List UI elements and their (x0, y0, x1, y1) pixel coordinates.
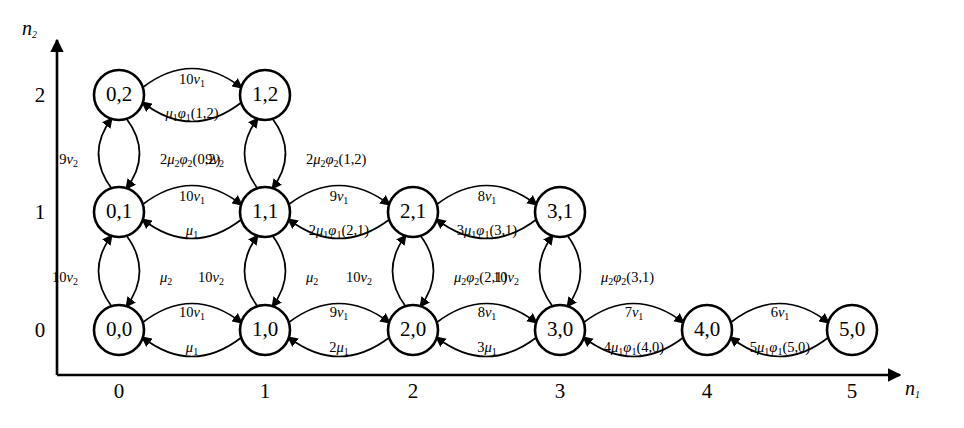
edge-up (245, 235, 259, 307)
x-tick-label: 2 (408, 379, 419, 403)
y-axis-name: n2 (22, 18, 37, 40)
transition-rate-label: 10v1 (179, 305, 205, 322)
transition-rate-label: 10v2 (52, 270, 78, 287)
state-node-label: 5,0 (839, 317, 865, 341)
state-node-label: 4,0 (694, 317, 720, 341)
edge-up (99, 235, 113, 307)
edge-down (567, 235, 581, 307)
state-node[interactable]: 0,2 (94, 70, 144, 120)
state-node-label: 1,2 (252, 82, 278, 106)
state-node-label: 3,0 (547, 317, 573, 341)
edge-down (126, 235, 140, 307)
transition-rate-label: μ1 (186, 340, 198, 357)
x-tick-label: 0 (114, 379, 125, 403)
x-tick-label: 3 (555, 379, 566, 403)
transition-rate-label: 3μ1 (477, 340, 497, 357)
transition-rate-label: μ2 (306, 270, 318, 287)
transition-rate-label: 10v2 (493, 270, 519, 287)
transition-rate-label: 9v2 (59, 152, 78, 169)
state-node-label: 0,2 (106, 82, 132, 106)
transition-rate-label: 2μ1 (329, 340, 349, 357)
transition-rate-label: 10v1 (179, 72, 205, 89)
y-tick-label: 0 (35, 318, 46, 342)
state-node[interactable]: 2,1 (388, 187, 438, 237)
transition-rate-label: 4μ1φ1(4,0) (604, 340, 664, 357)
transition-rate-label: 8v1 (478, 305, 497, 322)
state-node[interactable]: 4,0 (682, 305, 732, 355)
transition-rate-label: 8v1 (478, 189, 497, 206)
state-node-label: 1,0 (252, 317, 278, 341)
state-diagram-svg: 0,01,02,03,04,05,00,11,12,13,10,21,2 012… (0, 0, 964, 428)
transition-rate-label: 10v2 (198, 270, 224, 287)
edge-down (272, 118, 286, 189)
x-tick-label: 1 (260, 379, 271, 403)
transition-rate-label: 2μ1φ1(2,1) (309, 223, 369, 240)
edge-down (272, 235, 286, 307)
state-node-label: 2,1 (400, 199, 426, 223)
state-node[interactable]: 1,0 (240, 305, 290, 355)
transition-rate-label: μ2φ2(3,1) (601, 270, 654, 287)
edge-down (420, 235, 434, 307)
transition-rate-label: 9v1 (330, 189, 349, 206)
transition-rate-label: 5μ1φ1(5,0) (750, 340, 810, 357)
axes (57, 40, 900, 375)
x-tick-label: 5 (847, 379, 858, 403)
y-tick-label: 2 (35, 83, 46, 107)
state-node[interactable]: 1,1 (240, 187, 290, 237)
axis-ticks: 012345012 (35, 83, 858, 403)
state-node[interactable]: 2,0 (388, 305, 438, 355)
transition-rate-label: 2μ2φ2(1,2) (306, 152, 366, 169)
state-node-label: 3,1 (547, 199, 573, 223)
state-node-label: 1,1 (252, 199, 278, 223)
state-node-label: 0,0 (106, 317, 132, 341)
transition-rate-label: 10v2 (346, 270, 372, 287)
state-node[interactable]: 0,1 (94, 187, 144, 237)
transition-rate-label: 10v1 (179, 189, 205, 206)
state-node[interactable]: 3,0 (535, 305, 585, 355)
edge-up (245, 118, 259, 189)
state-node[interactable]: 1,2 (240, 70, 290, 120)
state-node[interactable]: 3,1 (535, 187, 585, 237)
edge-up (99, 118, 113, 189)
transition-rate-label: 6v1 (771, 305, 790, 322)
diagram-canvas: 0,01,02,03,04,05,00,11,12,13,10,21,2 012… (0, 0, 964, 428)
transition-rate-label: μ1φ1(1,2) (165, 106, 218, 123)
edge-down (126, 118, 140, 189)
transition-rate-label: 9v2 (205, 152, 224, 169)
transition-rate-label: μ2 (160, 270, 172, 287)
state-node[interactable]: 5,0 (827, 305, 877, 355)
transition-rate-label: 9v1 (330, 305, 349, 322)
y-tick-label: 1 (35, 200, 46, 224)
edge-up (540, 235, 554, 307)
x-tick-label: 4 (702, 379, 713, 403)
transition-rate-label: 3μ1φ1(3,1) (457, 223, 517, 240)
state-node-label: 2,0 (400, 317, 426, 341)
x-axis-name: n1 (905, 378, 920, 400)
transition-rate-label: 7v1 (625, 305, 644, 322)
state-node-label: 0,1 (106, 199, 132, 223)
transition-rate-label: μ1 (186, 223, 198, 240)
state-node[interactable]: 0,0 (94, 305, 144, 355)
edge-up (393, 235, 407, 307)
